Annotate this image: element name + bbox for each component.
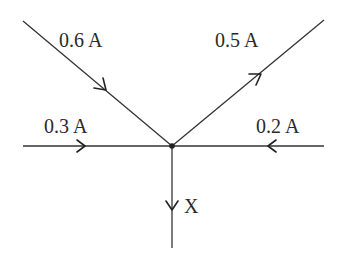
label-0.6A: 0.6 A (59, 30, 102, 50)
label-0.5A: 0.5 A (215, 30, 258, 50)
label-0.2A: 0.2 A (256, 116, 299, 136)
junction-node (169, 143, 175, 149)
arrow-0.5A-icon (249, 74, 261, 85)
label-0.3A: 0.3 A (44, 116, 87, 136)
label-X: X (184, 196, 198, 216)
arrow-0.6A-icon (94, 78, 106, 90)
